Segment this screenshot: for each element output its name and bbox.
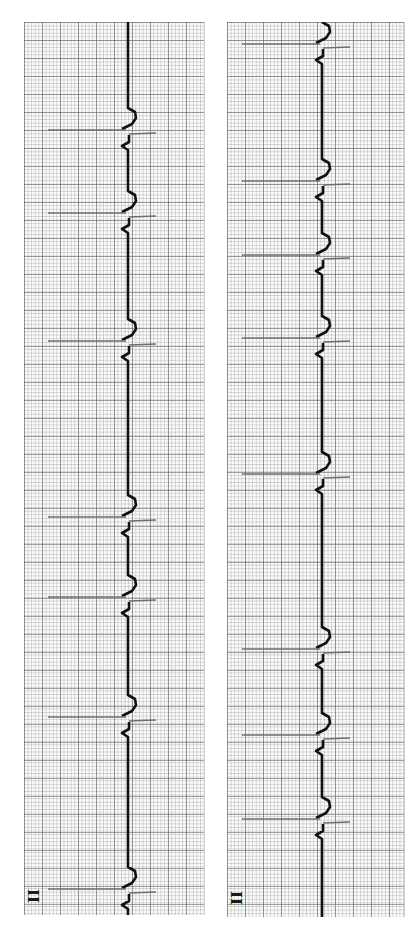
lead-label-left: II <box>24 889 42 903</box>
ecg-strip-right: II <box>227 22 405 917</box>
ecg-trace-left <box>24 22 204 915</box>
lead-label-right: II <box>227 891 245 905</box>
ecg-strip-left: II <box>24 22 205 915</box>
ecg-trace-right <box>227 22 404 917</box>
